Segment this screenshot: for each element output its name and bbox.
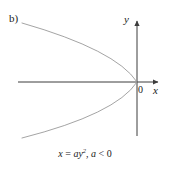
origin-label: 0 (138, 85, 143, 95)
x-axis-label: x (153, 85, 158, 96)
equation-caption: x = ay2, a < 0 (0, 148, 170, 159)
parabola-figure: b) y x 0 x = ay2, a < 0 (0, 0, 170, 171)
equation-coefficient: ay (73, 148, 82, 159)
y-axis-label: y (124, 14, 129, 25)
plot-canvas (0, 0, 170, 171)
parabola-curve (22, 23, 137, 138)
equation-condition-op: < 0 (96, 148, 112, 159)
equation-equals: = (63, 148, 74, 159)
panel-letter-label: b) (9, 13, 18, 24)
